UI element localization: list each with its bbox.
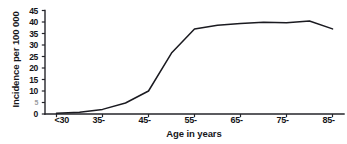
chart-figure: Incidence per 100 000 Age in years 45403… — [0, 0, 347, 144]
data-line-incidence — [57, 21, 333, 113]
axis-spines — [45, 11, 344, 115]
plot-area — [0, 0, 347, 144]
